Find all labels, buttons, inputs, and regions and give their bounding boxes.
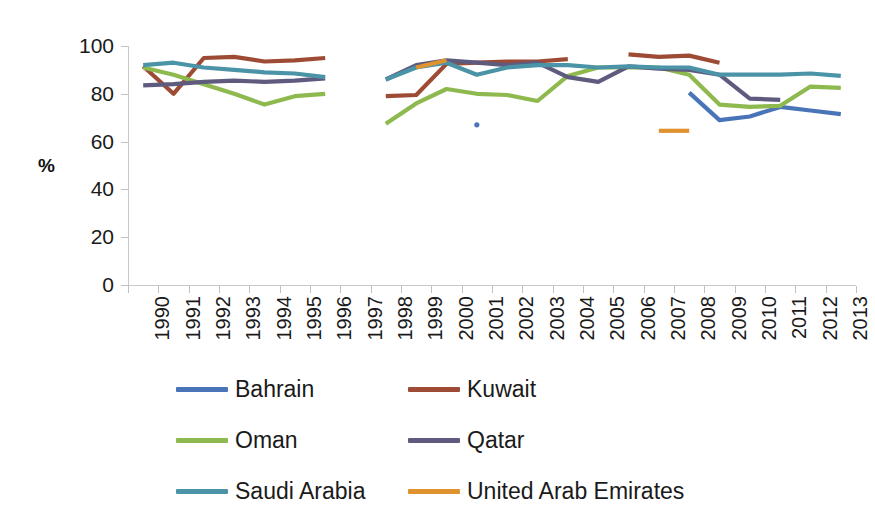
legend-item-saudi-arabia[interactable]: Saudi Arabia [176,480,408,503]
legend-swatch-icon [408,438,460,443]
legend-item-kuwait[interactable]: Kuwait [408,378,776,401]
legend-swatch-icon [176,387,228,392]
legend-swatch-icon [408,387,460,392]
legend-item-united-arab-emirates[interactable]: United Arab Emirates [408,480,776,503]
chart-legend: BahrainKuwaitOmanQatarSaudi ArabiaUnited… [176,378,776,503]
series-line [629,54,720,62]
legend-label: Kuwait [467,378,536,401]
legend-label: Bahrain [235,378,314,401]
legend-label: United Arab Emirates [467,480,684,503]
legend-swatch-icon [176,438,228,443]
line-chart: % 020406080100 1990199119921993199419951… [0,0,875,507]
legend-label: Qatar [467,429,525,452]
legend-item-oman[interactable]: Oman [176,429,408,452]
legend-item-bahrain[interactable]: Bahrain [176,378,408,401]
series-line [386,63,841,80]
data-point [474,122,479,127]
legend-swatch-icon [408,489,460,494]
legend-label: Saudi Arabia [235,480,365,503]
legend-label: Oman [235,429,298,452]
legend-swatch-icon [176,489,228,494]
series-line [143,78,325,85]
legend-item-qatar[interactable]: Qatar [408,429,776,452]
